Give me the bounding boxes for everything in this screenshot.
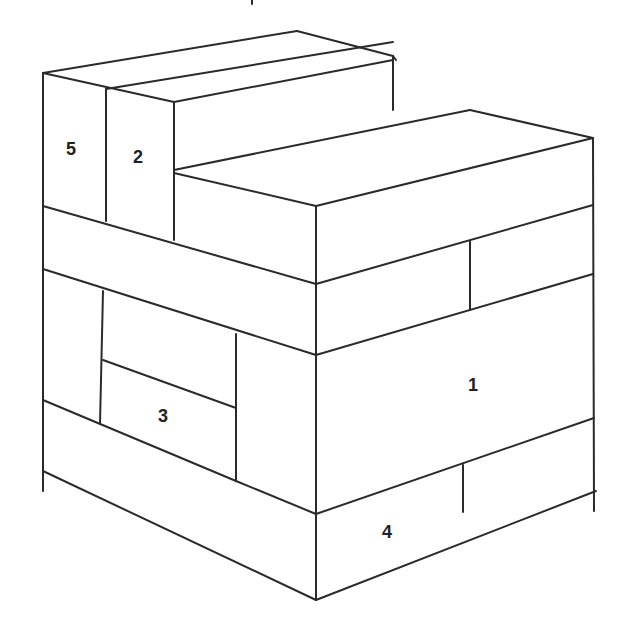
edge-line xyxy=(174,110,470,170)
edge-line xyxy=(103,360,236,408)
edge-line xyxy=(43,206,316,284)
edge-line xyxy=(316,491,596,600)
label-block-2: 2 xyxy=(133,147,143,167)
edge-line xyxy=(470,110,593,138)
edge-line xyxy=(106,42,393,89)
edge-line xyxy=(174,173,316,206)
block-stack-diagram: 5 2 3 1 4 xyxy=(0,0,621,632)
label-block-3: 3 xyxy=(158,406,168,426)
block-edges xyxy=(43,31,596,600)
edge-line xyxy=(174,60,393,102)
edge-line xyxy=(100,291,103,424)
edge-line xyxy=(593,138,594,511)
edge-line xyxy=(43,471,316,600)
edge-line xyxy=(43,269,316,355)
edge-line xyxy=(236,481,316,514)
edge-line xyxy=(43,400,236,481)
edge-line xyxy=(316,205,593,284)
edge-line xyxy=(43,31,297,73)
edge-line xyxy=(316,138,593,206)
label-block-1: 1 xyxy=(468,375,478,395)
label-block-4: 4 xyxy=(382,522,392,542)
edge-line xyxy=(316,274,593,355)
edge-line xyxy=(43,73,174,102)
label-block-5: 5 xyxy=(66,139,76,159)
edge-line xyxy=(316,418,594,514)
